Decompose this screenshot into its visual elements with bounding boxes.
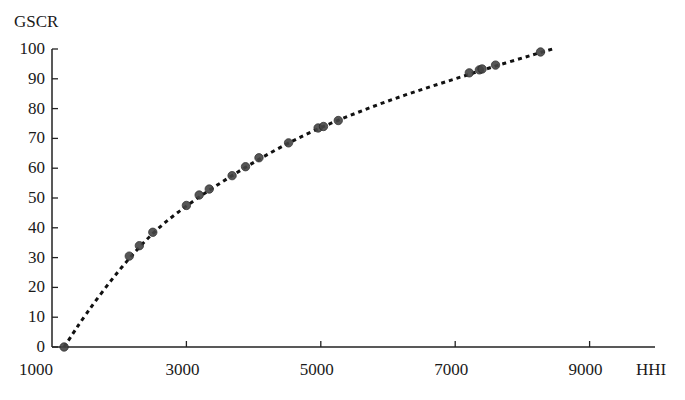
data-points	[60, 48, 545, 351]
x-tick-label: 5000	[300, 361, 334, 378]
y-tick-label: 40	[28, 219, 45, 236]
data-point	[241, 163, 249, 171]
data-point	[182, 201, 190, 209]
fitted-curve-path	[64, 49, 553, 347]
axes	[52, 49, 655, 347]
x-tick-label: 9000	[569, 361, 603, 378]
y-tick-label: 0	[37, 338, 46, 355]
data-point	[334, 116, 342, 124]
chart-canvas	[0, 0, 685, 400]
y-tick-label: 80	[28, 100, 45, 117]
data-point	[195, 191, 203, 199]
x-tick-label: 3000	[165, 361, 199, 378]
data-point	[536, 48, 544, 56]
data-point	[60, 343, 68, 351]
data-point	[284, 139, 292, 147]
fitted-curve	[64, 49, 553, 347]
data-point	[255, 154, 263, 162]
y-tick-label: 60	[28, 159, 45, 176]
x-tick-label: 1000	[19, 361, 53, 378]
y-tick-label: 20	[28, 278, 45, 295]
data-point	[149, 228, 157, 236]
data-point	[465, 69, 473, 77]
y-tick-label: 30	[28, 249, 45, 266]
x-tick-label: 7000	[434, 361, 468, 378]
y-tick-label: 100	[20, 40, 46, 57]
data-point	[228, 171, 236, 179]
y-tick-label: 90	[28, 70, 45, 87]
y-tick-label: 10	[28, 308, 45, 325]
data-point	[205, 185, 213, 193]
data-point	[478, 65, 486, 73]
y-tick-label: 70	[28, 129, 45, 146]
data-point	[125, 252, 133, 260]
data-point	[491, 61, 499, 69]
data-point	[319, 122, 327, 130]
y-axis-title: GSCR	[14, 13, 58, 30]
x-axis-title: HHI	[636, 361, 666, 378]
data-point	[135, 241, 143, 249]
y-tick-label: 50	[28, 189, 45, 206]
